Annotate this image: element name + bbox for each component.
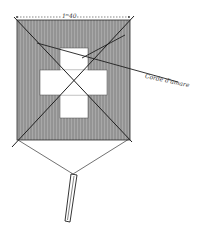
- kite-diagram: [0, 0, 197, 234]
- tail: [65, 174, 77, 222]
- bridle-lines: [18, 139, 129, 174]
- dimension-label: 1ᵐ40: [61, 12, 77, 19]
